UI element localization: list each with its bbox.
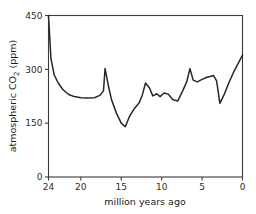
- co2-line-chart: 0150300450 2420151050 million years ago …: [0, 0, 256, 214]
- x-tick-label: 5: [199, 182, 205, 192]
- y-tick-label: 450: [25, 11, 42, 21]
- y-tick-label: 0: [37, 172, 43, 182]
- y-axis-ticks: 0150300450: [25, 11, 48, 183]
- x-tick-label: 0: [240, 182, 246, 192]
- y-tick-label: 300: [25, 65, 42, 75]
- x-tick-label: 10: [156, 182, 168, 192]
- y-axis-title-main: atmospheric CO: [7, 76, 18, 152]
- x-tick-label: 24: [43, 182, 55, 192]
- y-axis-title-units: (ppm): [7, 40, 18, 72]
- x-tick-label: 15: [116, 182, 127, 192]
- chart-figure: 0150300450 2420151050 million years ago …: [0, 0, 256, 214]
- x-axis-ticks: 2420151050: [43, 177, 246, 192]
- y-axis-title: atmospheric CO2 (ppm): [7, 40, 21, 153]
- co2-data-line: [49, 16, 243, 127]
- plot-frame: [49, 16, 243, 178]
- x-tick-label: 20: [75, 182, 87, 192]
- x-axis-title: million years ago: [104, 196, 186, 207]
- y-tick-label: 150: [25, 118, 42, 128]
